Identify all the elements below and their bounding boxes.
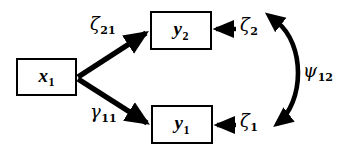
- subscript-11: 11: [101, 112, 116, 125]
- greek-glyph-gamma: γ: [90, 101, 101, 122]
- param-label-zeta2: ζ2: [240, 16, 258, 37]
- subscript-12: 12: [318, 71, 333, 84]
- greek-glyph-zeta: ζ: [240, 110, 250, 131]
- node-box-x1: x1: [16, 58, 77, 96]
- param-label-zeta1: ζ1: [240, 112, 258, 133]
- subscript-1: 1: [250, 121, 258, 134]
- subscript-21: 21: [100, 24, 115, 37]
- greek-glyph-zeta: ζ: [240, 14, 250, 35]
- greek-glyph-zeta: ζ: [90, 13, 100, 34]
- covariance-arc-psi12: [277, 22, 298, 124]
- param-label-zeta21: ζ21: [90, 15, 116, 36]
- node-box-y1: y1: [151, 105, 213, 144]
- node-label-y1: y1: [175, 113, 190, 136]
- node-label-x1: x1: [39, 66, 55, 89]
- sem-path-diagram: x1 y2 y1 ζ21 γ11 ζ2 ζ1 ψ12: [0, 0, 346, 149]
- greek-glyph-psi: ψ: [303, 60, 317, 81]
- param-label-gamma11: γ11: [90, 103, 117, 124]
- param-label-psi12: ψ12: [303, 62, 333, 83]
- node-box-y2: y2: [150, 11, 212, 50]
- subscript-2: 2: [250, 25, 258, 38]
- path-arrow-x1-to-y2: [78, 33, 146, 77]
- node-label-y2: y2: [174, 19, 189, 42]
